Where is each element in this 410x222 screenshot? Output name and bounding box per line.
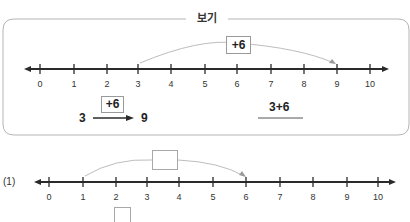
arc-arrowhead-icon [239,171,246,177]
tick-label: 4 [176,192,181,202]
tick-label: 3 [135,79,140,89]
tick-label: 10 [373,192,383,202]
tick-label: 4 [168,79,173,89]
left-arrow-icon [34,179,41,185]
tick-label: 1 [80,192,85,202]
tick-label: 8 [301,79,306,89]
problem1-number-line [34,160,396,187]
tick-label: 6 [234,79,239,89]
operation-box: +6 [101,96,124,113]
start-value: 3 [79,111,86,125]
left-arrow-icon [24,66,31,72]
example-title: 보기 [190,12,224,26]
jump-answer-box[interactable] [152,150,178,170]
answer-blank-box[interactable] [114,207,131,222]
tick-label: 5 [210,192,215,202]
tick-label: 9 [334,79,339,89]
example-number-line [24,42,389,74]
tick-label: 10 [365,79,375,89]
tick-label: 3 [144,192,149,202]
tick-label: 7 [268,79,273,89]
tick-label: 1 [71,79,76,89]
tick-label: 0 [46,192,51,202]
example-frame [3,19,409,135]
operation-arrow-icon [126,115,134,121]
tick-label: 9 [344,192,349,202]
expression: 3+6 [269,100,289,114]
tick-label: 8 [310,192,315,202]
tick-label: 6 [243,192,248,202]
right-arrow-icon [382,66,389,72]
end-value: 9 [141,111,148,125]
tick-label: 2 [113,192,118,202]
tick-label: 5 [202,79,207,89]
worksheet-graphics [0,0,410,222]
tick-label: 0 [37,79,42,89]
problem-number: (1) [3,176,15,187]
tick-label: 2 [104,79,109,89]
right-arrow-icon [389,179,396,185]
jump-label-box: +6 [226,36,251,54]
tick-label: 7 [277,192,282,202]
